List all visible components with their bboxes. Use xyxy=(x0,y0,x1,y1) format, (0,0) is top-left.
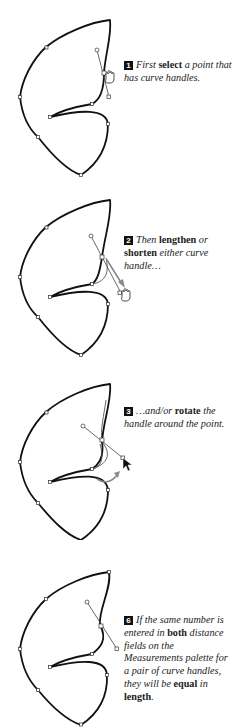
step-number-badge: 3 xyxy=(124,407,133,416)
step-number-badge: 2 xyxy=(124,236,133,245)
step-number-badge: 6 xyxy=(124,616,133,625)
grabber-hand-icon xyxy=(106,71,114,84)
figure-step-2: 2Then lengthen or shorten either curve h… xyxy=(0,180,232,360)
grabber-hand-icon xyxy=(122,289,130,302)
rotate-arrow-icon xyxy=(97,471,120,482)
step-1-caption: 1First select a point that has curve han… xyxy=(124,59,232,85)
arrow-pointer-icon xyxy=(123,458,132,471)
figure-step-6: 6If the same number is entered in both d… xyxy=(0,540,232,727)
step-2-caption: 2Then lengthen or shorten either curve h… xyxy=(124,234,232,272)
bezier-shape-illustration xyxy=(0,0,232,180)
step-6-caption: 6If the same number is entered in both d… xyxy=(124,614,232,704)
step-3-caption: 3…and/or rotate the handle around the po… xyxy=(124,405,232,431)
bezier-shape-illustration xyxy=(0,360,232,540)
step-number-badge: 1 xyxy=(124,61,133,70)
figure-step-1: 1First select a point that has curve han… xyxy=(0,0,232,180)
figure-step-3: 3…and/or rotate the handle around the po… xyxy=(0,360,232,540)
